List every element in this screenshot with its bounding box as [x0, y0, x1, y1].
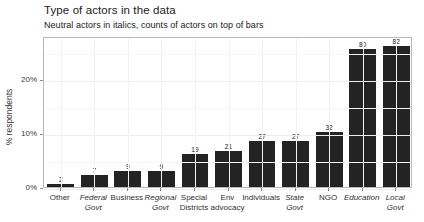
gridline-vertical [296, 38, 297, 187]
bars-layer: 279919212727328082 [44, 38, 411, 187]
gridline-major [44, 81, 411, 82]
y-axis-title: % respondents [2, 52, 16, 182]
gridline-vertical [229, 38, 230, 187]
plot-panel: 279919212727328082 [43, 37, 412, 188]
gridline-vertical [363, 38, 364, 187]
y-tick-mark [40, 134, 43, 135]
gridline-vertical [195, 38, 196, 187]
x-tick-mark [395, 188, 396, 191]
x-tick-mark [60, 188, 61, 191]
y-tick-label: 20% [7, 75, 37, 84]
chart-subtitle: Neutral actors in italics, counts of act… [44, 20, 264, 30]
gridline-vertical [329, 38, 330, 187]
gridline-minor [44, 54, 411, 55]
y-tick-mark [40, 80, 43, 81]
x-tick-mark [362, 188, 363, 191]
gridline-minor [44, 162, 411, 163]
x-tick-mark [261, 188, 262, 191]
gridline-minor [44, 108, 411, 109]
gridline-vertical [61, 38, 62, 187]
x-tick-label: Local Govt [371, 193, 419, 212]
gridline-vertical [262, 38, 263, 187]
gridline-vertical [94, 38, 95, 187]
x-tick-mark [194, 188, 195, 191]
chart-root: Type of actors in the data Neutral actor… [0, 0, 424, 222]
x-tick-mark [328, 188, 329, 191]
x-tick-mark [127, 188, 128, 191]
gridline-vertical [396, 38, 397, 187]
gridline-major [44, 135, 411, 136]
x-tick-mark [160, 188, 161, 191]
gridline-vertical [161, 38, 162, 187]
x-tick-mark [228, 188, 229, 191]
x-tick-mark [295, 188, 296, 191]
y-tick-mark [40, 188, 43, 189]
chart-title: Type of actors in the data [44, 4, 176, 16]
gridline-vertical [128, 38, 129, 187]
y-tick-label: 0% [7, 183, 37, 192]
x-tick-mark [93, 188, 94, 191]
y-tick-label: 10% [7, 129, 37, 138]
